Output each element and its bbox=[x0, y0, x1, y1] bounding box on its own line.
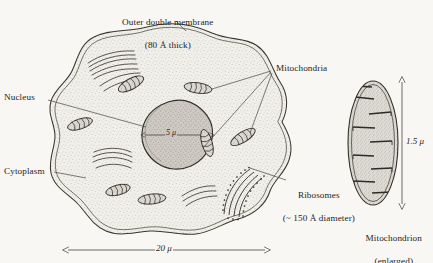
outer-membrane-label-line1: Outer double membrane bbox=[122, 17, 213, 27]
inset-caption: Mitochondrion (enlarged) bbox=[345, 221, 433, 263]
mitochondrion-length-label: 1.5 μ bbox=[405, 136, 425, 146]
nucleus-label: Nucleus bbox=[4, 92, 35, 104]
outer-membrane-label: Outer double membrane (80 Å thick) bbox=[88, 5, 238, 63]
mitochondria-label: Mitochondria bbox=[276, 63, 327, 75]
ribosomes-label-line1: Ribosomes bbox=[298, 190, 340, 200]
inset-caption-line2: (enlarged) bbox=[375, 256, 414, 263]
figure-canvas: Outer double membrane (80 Å thick) Nucle… bbox=[0, 0, 433, 263]
inset-caption-line1: Mitochondrion bbox=[366, 233, 422, 243]
cytoplasm-label: Cytoplasm bbox=[4, 166, 45, 178]
nucleus-diameter-label: 5 μ bbox=[165, 128, 177, 137]
cell-width-label: 20 μ bbox=[155, 243, 173, 253]
outer-membrane-label-line2: (80 Å thick) bbox=[145, 40, 191, 50]
